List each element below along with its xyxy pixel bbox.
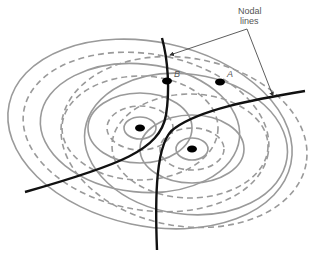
source-1-dot	[135, 125, 145, 132]
interference-diagram	[0, 0, 331, 261]
source-1-wavefronts	[0, 14, 310, 254]
source-2-dot	[187, 146, 197, 153]
point-a-label: A	[227, 69, 233, 79]
nodal-lines-label-line2: lines	[238, 16, 262, 26]
nodal-lines-label: Nodal lines	[238, 6, 262, 26]
nodal-lines-label-line1: Nodal	[238, 6, 262, 16]
point-a-dot	[215, 79, 225, 86]
point-b-label: B	[174, 69, 180, 79]
nodal-line-left	[25, 38, 168, 192]
point-b-dot	[162, 78, 172, 85]
